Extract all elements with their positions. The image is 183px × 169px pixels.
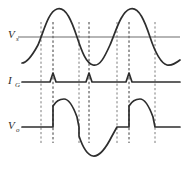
source-voltage-label-subscript: s <box>16 35 19 43</box>
figure-background <box>0 0 183 169</box>
waveform-canvas: V s I G V o <box>0 0 183 169</box>
gate-current-label-subscript: G <box>15 81 20 89</box>
waveform-figure: V s I G V o <box>0 0 183 169</box>
output-voltage-label-subscript: o <box>16 126 20 134</box>
